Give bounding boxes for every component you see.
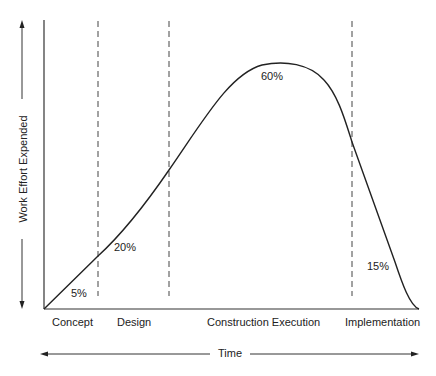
effort-curve <box>44 63 419 309</box>
phase-label-design: Design <box>117 316 151 328</box>
phase-label-construction: Construction Execution <box>207 316 320 328</box>
x-axis-label: Time <box>214 347 246 359</box>
arrow-up-icon <box>20 20 25 28</box>
percent-design: 20% <box>114 241 136 253</box>
y-axis-label: Work Effort Expended <box>17 99 29 239</box>
arrow-left-icon <box>40 352 48 357</box>
percent-concept: 5% <box>71 287 87 299</box>
arrow-right-icon <box>411 352 419 357</box>
phase-label-implementation: Implementation <box>345 316 420 328</box>
phase-label-concept: Concept <box>52 316 93 328</box>
percent-construction: 60% <box>261 70 283 82</box>
arrow-down-icon <box>20 301 25 309</box>
percent-implementation: 15% <box>367 260 389 272</box>
